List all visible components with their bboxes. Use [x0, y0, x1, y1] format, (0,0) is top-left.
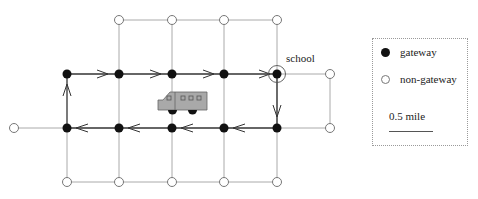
- gateway-node: [115, 70, 124, 79]
- non-gateway-node: [168, 16, 177, 25]
- non-gateway-node: [326, 70, 335, 79]
- non-gateway-node: [220, 178, 229, 187]
- non-gateway-node: [63, 178, 72, 187]
- gateway-node: [63, 124, 72, 133]
- gateway-dot-icon: [381, 48, 390, 57]
- gateway-node: [168, 124, 177, 133]
- non-gateway-node: [115, 16, 124, 25]
- gateway-node: [63, 70, 72, 79]
- non-gateway-node: [273, 16, 282, 25]
- legend-gateway-label: gateway: [400, 46, 437, 58]
- gateway-node: [220, 124, 229, 133]
- bus-icon: [158, 92, 207, 115]
- gateway-node: [115, 124, 124, 133]
- legend: gateway non-gateway 0.5 mile: [372, 38, 468, 146]
- legend-gateway: gateway: [381, 46, 437, 58]
- non-gateway-node: [115, 178, 124, 187]
- non-gateway-node: [273, 178, 282, 187]
- gateway-node: [273, 124, 282, 133]
- gateway-node: [273, 70, 282, 79]
- non-gateway-node: [326, 124, 335, 133]
- gateway-node: [168, 70, 177, 79]
- scale-bar: [389, 131, 433, 132]
- non-gateway-dot-icon: [381, 75, 390, 84]
- school-label: school: [286, 52, 315, 64]
- non-gateway-node: [168, 178, 177, 187]
- legend-non-gateway: non-gateway: [381, 73, 457, 85]
- non-gateway-node: [220, 16, 229, 25]
- legend-non-gateway-label: non-gateway: [400, 73, 457, 85]
- gateway-node: [220, 70, 229, 79]
- non-gateway-node: [10, 124, 19, 133]
- scale-label: 0.5 mile: [389, 110, 425, 122]
